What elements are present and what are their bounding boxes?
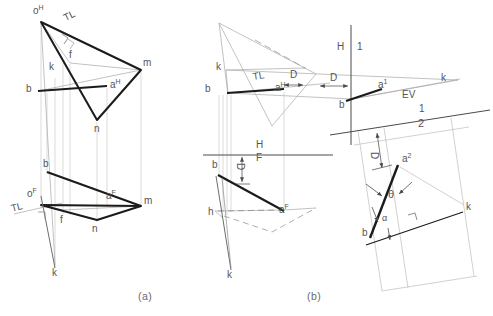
label-b-front-a: b [43, 159, 49, 169]
aux-view-2-segment-ba2 [370, 165, 398, 238]
caption-b: (b) [307, 290, 321, 302]
label-dimension-d-aux2: D [369, 152, 379, 159]
label-ref-h-1-upper: H [337, 42, 344, 52]
label-h-front-b: h [208, 207, 214, 217]
panel-a-front-segment-ba [47, 172, 141, 206]
label-ev: EV [402, 90, 415, 100]
panel-b [203, 23, 490, 291]
label-ref-1-2-upper: 1 [419, 104, 425, 114]
panel-a-top-right-angle-2 [68, 39, 74, 49]
label-n-top-a: n [94, 124, 100, 134]
aux-view-2-frame [354, 118, 477, 291]
label-k-top-b: k [216, 62, 221, 72]
panel-b-top-dashed [255, 40, 305, 68]
angle-alpha-arrow [372, 207, 378, 222]
label-dimension-d-1: D [290, 70, 297, 80]
label-dimension-d-front: D [235, 163, 245, 170]
panel-b-projectors [219, 92, 284, 215]
label-a-f-b: aF [279, 205, 289, 215]
dimension-d-front [234, 157, 250, 184]
label-k-front-b: k [227, 270, 232, 280]
label-k-front-a: k [52, 268, 57, 278]
label-ref-h-f-upper: H [256, 140, 263, 150]
label-n-front-a: n [92, 224, 98, 234]
label-a-1: a1 [378, 80, 387, 90]
label-a-h-b: aH [275, 83, 286, 93]
label-ref-1-2-lower: 2 [418, 118, 424, 129]
panel-b-front-segment-ba [218, 175, 284, 211]
label-dimension-d-2: D [330, 73, 337, 83]
label-a-2: a2 [402, 154, 411, 164]
aux-view-2-tick [388, 228, 390, 240]
label-m-top-a: m [143, 58, 151, 68]
label-f-front-a: f [60, 215, 63, 225]
label-o-h: oH [33, 6, 44, 16]
label-ref-h-1-lower: 1 [357, 42, 363, 52]
panel-a-top-segment-ba [38, 86, 107, 91]
engineering-drawing-canvas [0, 0, 493, 316]
label-o-f: oF [27, 189, 37, 199]
label-f-top-a: f [69, 50, 72, 60]
label-b-top-b: b [205, 84, 211, 94]
label-ref-h-f-lower: F [256, 153, 262, 163]
label-angle-alpha: α [382, 214, 387, 223]
reference-line-1-2 [330, 110, 490, 135]
aux-view-2-right-angle [408, 213, 417, 220]
label-k-top-a: k [49, 62, 54, 72]
panel-a-projectors [41, 24, 141, 268]
caption-a: (a) [138, 290, 152, 302]
label-b-aux2: b [362, 228, 368, 238]
label-k-aux1: k [441, 73, 446, 83]
panel-a-top-construction [38, 22, 141, 265]
label-tl-top-b: TL [252, 70, 265, 82]
label-b-front-b: b [212, 160, 218, 170]
label-b-top-a: b [26, 84, 32, 94]
aux-view-2-line-k [366, 212, 463, 245]
panel-a [14, 22, 141, 268]
label-m-front-a: m [144, 196, 152, 206]
panel-a-top-triangle [41, 22, 141, 120]
label-k-aux2: k [466, 202, 471, 212]
panel-a-front-triangle [41, 205, 141, 220]
label-angle-theta: θ [388, 189, 394, 200]
panel-b-front-dashed-triangle [224, 208, 316, 232]
label-b-aux1: b [339, 100, 345, 110]
label-a-f: aF [106, 191, 116, 201]
label-a-h: aH [110, 80, 121, 90]
